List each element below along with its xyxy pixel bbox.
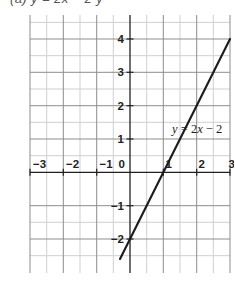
y-tick-label-1: 1: [118, 133, 125, 145]
y-tick-label-neg1: −1: [111, 200, 125, 212]
plot-svg: −3 −2 −1 0 1 2 3 4 3 2 1 −1 −2 y = 2x − …: [0, 11, 234, 286]
x-tick-label-neg3: −3: [33, 158, 46, 170]
y-tick-label-neg2: −2: [111, 233, 124, 245]
x-tick-label-2: 2: [199, 158, 205, 170]
equation-label-minus: −: [203, 122, 216, 136]
x-tick-label-3: 3: [229, 158, 235, 170]
x-tick-label-neg2: −2: [66, 158, 79, 170]
equation-label-equals: =: [178, 122, 191, 136]
y-tick-label-4: 4: [118, 33, 125, 45]
equation-label-constant: 2: [216, 122, 222, 136]
cut-off-header-text: (a) y = 2x − 2 y: [0, 0, 234, 11]
x-tick-label-neg1: −1: [100, 158, 114, 170]
y-tick-label-2: 2: [118, 100, 124, 112]
equation-label: y = 2x − 2: [170, 122, 222, 136]
coordinate-plot: −3 −2 −1 0 1 2 3 4 3 2 1 −1 −2 y = 2x − …: [0, 11, 234, 286]
header-fragment-label: (a) y = 2x − 2 y: [10, 0, 103, 6]
y-tick-label-3: 3: [118, 66, 124, 78]
x-tick-label-zero: 0: [119, 158, 125, 170]
